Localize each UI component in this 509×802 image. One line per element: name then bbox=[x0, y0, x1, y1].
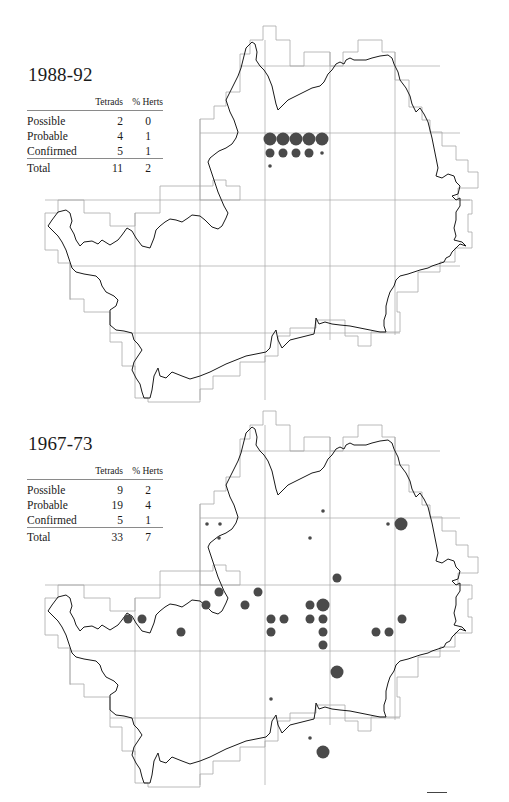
record-dot-medium bbox=[372, 628, 381, 637]
record-dot-medium bbox=[267, 628, 276, 637]
record-dot-large bbox=[290, 133, 303, 146]
record-dot-medium bbox=[124, 615, 133, 624]
record-dot-medium bbox=[306, 601, 315, 610]
breeding-records bbox=[124, 509, 408, 758]
record-dot-small bbox=[321, 509, 325, 513]
record-dot-medium bbox=[319, 641, 328, 650]
tetrad-grid bbox=[45, 40, 470, 400]
distribution-maps bbox=[0, 0, 509, 802]
record-dot-medium bbox=[280, 615, 289, 624]
tetrad-fringe-boundary bbox=[45, 26, 478, 402]
record-dot-small bbox=[217, 536, 221, 540]
record-dot-large bbox=[317, 599, 330, 612]
map-1988-92 bbox=[45, 26, 478, 402]
record-dot-large bbox=[331, 666, 344, 679]
record-dot-small bbox=[308, 736, 312, 740]
record-dot-small bbox=[269, 697, 273, 701]
map-1967-73 bbox=[45, 411, 478, 787]
record-dot-medium bbox=[138, 615, 147, 624]
county-boundary bbox=[48, 427, 466, 783]
record-dot-medium bbox=[333, 574, 342, 583]
record-dot-large bbox=[264, 133, 277, 146]
record-dot-large bbox=[277, 133, 290, 146]
record-dot-medium bbox=[385, 628, 394, 637]
record-dot-medium bbox=[254, 588, 263, 597]
record-dot-medium bbox=[292, 149, 301, 158]
record-dot-large bbox=[317, 746, 330, 759]
record-dot-medium bbox=[267, 615, 276, 624]
scale-bar bbox=[427, 792, 447, 793]
record-dot-small bbox=[218, 522, 222, 526]
record-dot-medium bbox=[306, 615, 315, 624]
record-dot-small bbox=[205, 522, 209, 526]
tetrad-grid bbox=[45, 425, 470, 785]
record-dot-medium bbox=[202, 601, 211, 610]
record-dot-large bbox=[303, 133, 316, 146]
record-dot-medium bbox=[279, 149, 288, 158]
record-dot-small bbox=[320, 151, 324, 155]
record-dot-small bbox=[386, 522, 390, 526]
record-dot-medium bbox=[319, 615, 328, 624]
record-dot-medium bbox=[319, 628, 328, 637]
record-dot-medium bbox=[398, 615, 407, 624]
record-dot-large bbox=[395, 518, 408, 531]
breeding-records bbox=[264, 133, 329, 168]
record-dot-large bbox=[316, 133, 329, 146]
record-dot-medium bbox=[241, 601, 250, 610]
record-dot-small bbox=[268, 164, 272, 168]
tetrad-fringe-boundary bbox=[45, 411, 478, 787]
record-dot-medium bbox=[305, 149, 314, 158]
county-boundary bbox=[48, 42, 466, 398]
record-dot-medium bbox=[266, 149, 275, 158]
record-dot-medium bbox=[177, 628, 186, 637]
record-dot-medium bbox=[215, 588, 224, 597]
record-dot-small bbox=[308, 536, 312, 540]
